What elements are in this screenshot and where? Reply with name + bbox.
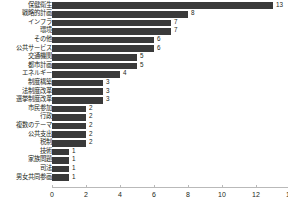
bar	[52, 123, 86, 130]
bar-value-label: 2	[89, 112, 93, 121]
plot-area: 保健衛生13戦略的計画8インフラ7環境7その他6公共サービス6交通機関5都市計画…	[0, 0, 288, 205]
bar-value-label: 5	[140, 52, 144, 61]
bar	[52, 106, 86, 113]
bar-value-label: 2	[89, 121, 93, 130]
bar-category-label: 行政	[0, 112, 52, 121]
bar	[52, 174, 69, 181]
bar-value-label: 1	[72, 147, 76, 156]
bar-category-label: 制度構築	[0, 78, 52, 87]
bar	[52, 131, 86, 138]
x-axis-tick	[52, 185, 53, 188]
x-axis-tick-label: 0	[50, 190, 54, 200]
x-axis-tick-label: 4	[118, 190, 122, 200]
bar-category-label: 男女共同参画	[0, 173, 52, 182]
bar-category-label: 都市計画	[0, 61, 52, 70]
bar-value-label: 1	[72, 173, 76, 182]
bar	[52, 2, 273, 9]
bar	[52, 20, 171, 27]
bar-value-label: 2	[89, 104, 93, 113]
bar-row: 男女共同参画1	[0, 174, 288, 183]
bar-value-label: 6	[157, 35, 161, 44]
x-axis-tick	[86, 185, 87, 188]
x-axis-tick-label: 2	[84, 190, 88, 200]
bar-value-label: 4	[123, 69, 127, 78]
bar-chart: 保健衛生13戦略的計画8インフラ7環境7その他6公共サービス6交通機関5都市計画…	[0, 0, 288, 205]
bar	[52, 149, 69, 156]
bar	[52, 157, 69, 164]
bar-category-label: 環境	[0, 26, 52, 35]
x-axis-tick	[256, 185, 257, 188]
bar-category-label: その他	[0, 35, 52, 44]
bar	[52, 28, 171, 35]
bar-category-label: 公共サービス	[0, 44, 52, 53]
x-axis-tick	[154, 185, 155, 188]
bar-category-label: 法制度改革	[0, 87, 52, 96]
bar-category-label: エネルギー	[0, 69, 52, 78]
bar	[52, 71, 120, 78]
bar-category-label: 税制	[0, 138, 52, 147]
bar-value-label: 1	[72, 155, 76, 164]
x-axis-tick	[188, 185, 189, 188]
bar-category-label: 戦略的計画	[0, 9, 52, 18]
bar-category-label: 技術	[0, 147, 52, 156]
bar	[52, 45, 154, 52]
x-axis-tick	[120, 185, 121, 188]
bar-category-label: 家族問題	[0, 155, 52, 164]
bar-category-label: 選挙制度改革	[0, 95, 52, 104]
bar	[52, 37, 154, 44]
bar-category-label: インフラ	[0, 18, 52, 27]
bar-category-label: 保健衛生	[0, 1, 52, 10]
x-axis-tick-label: 14	[286, 190, 288, 200]
bar-category-label: 交通機関	[0, 52, 52, 61]
bar-value-label: 1	[72, 164, 76, 173]
bar-category-label: 公共支出	[0, 130, 52, 139]
bar	[52, 63, 137, 70]
bar	[52, 54, 137, 61]
bar-value-label: 2	[89, 138, 93, 147]
bar	[52, 88, 103, 95]
x-axis-tick-label: 8	[186, 190, 190, 200]
bar-value-label: 7	[174, 18, 178, 27]
bar	[52, 114, 86, 121]
x-axis-tick	[222, 185, 223, 188]
bar	[52, 97, 103, 104]
x-axis-tick-label: 10	[218, 190, 226, 200]
bar-category-label: 複数のテーマ	[0, 121, 52, 130]
x-axis-line	[52, 187, 288, 188]
bar-value-label: 13	[276, 1, 283, 10]
bar	[52, 166, 69, 173]
bar-value-label: 2	[89, 130, 93, 139]
bar-value-label: 3	[106, 87, 110, 96]
bar	[52, 80, 103, 87]
bar-value-label: 5	[140, 61, 144, 70]
bar-value-label: 3	[106, 95, 110, 104]
bar-category-label: 市民参加	[0, 104, 52, 113]
bar	[52, 140, 86, 147]
bar	[52, 11, 188, 18]
bar-value-label: 7	[174, 26, 178, 35]
x-axis-tick-label: 12	[252, 190, 260, 200]
x-axis-tick-label: 6	[152, 190, 156, 200]
bar-value-label: 3	[106, 78, 110, 87]
bar-category-label: 司法	[0, 164, 52, 173]
bar-value-label: 8	[191, 9, 195, 18]
bar-value-label: 6	[157, 44, 161, 53]
